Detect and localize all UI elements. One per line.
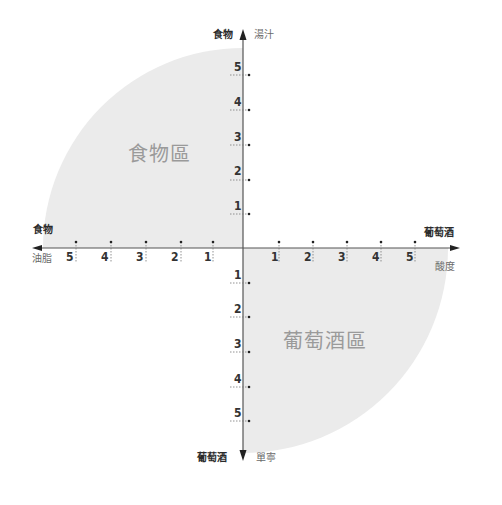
arrow-left-icon: [32, 245, 42, 251]
top-axis-light-label: 湯汁: [254, 30, 274, 40]
tick-label: 4: [234, 373, 242, 385]
tick-label: 2: [171, 251, 179, 263]
bottom-axis-bold-label: 葡萄酒: [197, 453, 227, 463]
tick-label: 5: [406, 251, 414, 263]
tick-label: 4: [234, 96, 242, 108]
right-axis-light-label: 酸度: [435, 262, 455, 272]
bottom-axis-light-label: 單寧: [256, 453, 276, 463]
tick-label: 3: [338, 251, 346, 263]
tick-label: 5: [234, 407, 242, 419]
arrow-down-icon: [240, 450, 247, 461]
tick-label: 1: [234, 269, 242, 281]
tick-label: 5: [234, 61, 242, 73]
right-axis-bold-label: 葡萄酒: [424, 228, 454, 238]
top-axis-bold-label: 食物: [213, 30, 233, 40]
tick-label: 2: [234, 303, 242, 315]
left-axis-light-label: 油脂: [32, 254, 52, 264]
tick-label: 2: [304, 251, 312, 263]
tick-label: 5: [66, 251, 74, 263]
tick-label: 4: [101, 251, 109, 263]
wine-region-label: 葡萄酒區: [283, 331, 367, 351]
tick-label: 2: [234, 165, 242, 177]
arrow-up-icon: [240, 29, 247, 40]
tick-label: 1: [234, 200, 242, 212]
tick-label: 4: [372, 251, 380, 263]
tick-label: 1: [204, 251, 212, 263]
tick-label: 1: [271, 251, 279, 263]
diagram-canvas: [0, 0, 502, 505]
arrow-right-icon: [450, 245, 460, 251]
tick-label: 3: [234, 338, 242, 350]
left-axis-bold-label: 食物: [33, 225, 53, 235]
tick-label: 3: [234, 131, 242, 143]
tick-label: 3: [136, 251, 144, 263]
food-region-label: 食物區: [128, 144, 191, 164]
